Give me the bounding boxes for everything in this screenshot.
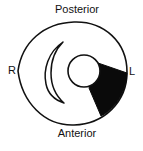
inner-circle [68, 55, 100, 87]
cross-section-diagram [0, 0, 143, 151]
crescent-shape [45, 42, 64, 103]
